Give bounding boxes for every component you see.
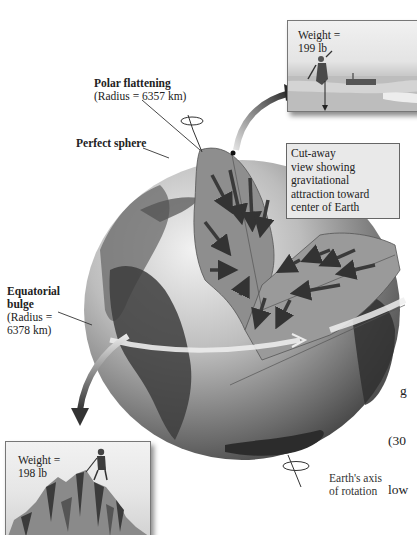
polar-flattening-label: Polar flattening (Radius = 6357 km) bbox=[94, 77, 186, 103]
body-text-line: low bbox=[388, 482, 409, 499]
pole-weight-line-1: Weight = bbox=[298, 29, 340, 42]
arrow-to-pole-photo bbox=[236, 93, 290, 150]
equatorial-title-1: Equatorial bbox=[7, 285, 60, 298]
axis-of-rotation-label: Earth's axis of rotation bbox=[329, 472, 382, 498]
polar-flattening-title: Polar flattening bbox=[94, 77, 186, 90]
perfect-sphere-label: Perfect sphere bbox=[76, 137, 146, 150]
pole-weight-label: Weight = 199 lb bbox=[298, 29, 340, 55]
equatorial-radius-1: (Radius = bbox=[7, 311, 60, 324]
rotation-axis-top bbox=[193, 130, 202, 152]
body-text-line: sur bbox=[388, 532, 409, 535]
equator-weight-value: 198 lb bbox=[18, 467, 60, 480]
callout-line: view showing bbox=[291, 161, 395, 175]
axis-label-line-1: Earth's axis bbox=[329, 472, 382, 485]
equatorial-bulge-label: Equatorial bulge (Radius = 6378 km) bbox=[7, 285, 60, 337]
body-text-line: g bbox=[395, 383, 409, 400]
pole-weight-value: 199 lb bbox=[298, 42, 340, 55]
body-text-line: (30 bbox=[388, 433, 409, 450]
cropped-body-text: g (30 low sur Son con for pal dic (Fi bbox=[395, 350, 409, 535]
perfect-sphere-text: Perfect sphere bbox=[76, 137, 146, 150]
callout-line: Cut-away bbox=[291, 147, 395, 161]
pole-photo: Weight = 199 lb bbox=[287, 20, 417, 112]
callout-line: attraction toward bbox=[291, 188, 395, 202]
cutaway-callout: Cut-away view showing gravitational attr… bbox=[286, 143, 400, 219]
rotation-axis-bottom bbox=[288, 455, 301, 487]
callout-line: center of Earth bbox=[291, 201, 395, 215]
equator-weight-label: Weight = 198 lb bbox=[18, 454, 60, 480]
polar-radius: (Radius = 6357 km) bbox=[94, 90, 186, 102]
equatorial-title-2: bulge bbox=[7, 298, 60, 311]
equator-photo: Weight = 198 lb bbox=[5, 441, 151, 535]
callout-line: gravitational bbox=[291, 174, 395, 188]
equator-weight-line-1: Weight = bbox=[18, 454, 60, 467]
axis-label-line-2: of rotation bbox=[329, 485, 382, 498]
pole-dot bbox=[231, 151, 236, 156]
sphere-leader bbox=[143, 148, 169, 158]
equatorial-radius-2: 6378 km) bbox=[7, 324, 60, 337]
